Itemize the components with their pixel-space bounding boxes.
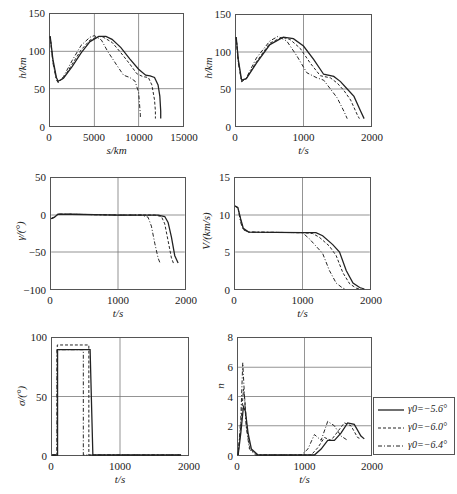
x-axis-label: t/s [273, 307, 333, 319]
y-tick-label: 100 [15, 45, 45, 57]
x-axis-label: t/s [275, 473, 335, 485]
series-line-solid [50, 36, 161, 118]
dashdot-line-icon [378, 445, 404, 448]
legend-item-dashdot: γ0=−6.4° [378, 439, 454, 453]
series-line-solid [52, 350, 181, 455]
y-tick-label: 150 [201, 8, 231, 20]
x-axis-label: s/km [87, 144, 147, 156]
series-line-solid [51, 214, 178, 263]
y-tick-label: 150 [15, 7, 45, 19]
x-tick-label: 5000 [74, 131, 114, 143]
plot-svg [238, 338, 371, 455]
y-tick-label: 4 [203, 391, 233, 403]
x-tick-label: 1000 [283, 294, 323, 306]
series-line-solid [238, 407, 364, 455]
x-tick-label: 0 [30, 294, 70, 306]
plot-area-h-vs-t [235, 14, 372, 127]
legend: γ0=−5.6° γ0=−6.0° γ0=−6.4° [373, 397, 455, 455]
x-tick-label: 2000 [351, 294, 391, 306]
series-line-solid [235, 206, 364, 289]
x-axis-label: t/s [90, 473, 150, 485]
x-tick-label: 2000 [352, 460, 392, 472]
plot-svg [51, 178, 185, 289]
plot-area-gamma-vs-t [50, 177, 186, 290]
y-tick-label: 6 [203, 361, 233, 373]
plot-area-n-vs-t [237, 337, 372, 456]
y-tick-label: 50 [16, 171, 46, 183]
series-line-dashed [51, 214, 173, 263]
x-axis-label: t/s [88, 307, 148, 319]
y-tick-label: 100 [201, 46, 231, 58]
series-line-dashed [238, 389, 361, 455]
legend-item-solid: γ0=−5.6° [378, 403, 454, 417]
series-line-dashdot [50, 36, 140, 119]
series-line-dashdot [51, 214, 160, 263]
series-line-dashed [236, 37, 359, 118]
y-tick-label: 50 [15, 83, 45, 95]
series-line-dashed [52, 345, 181, 455]
x-tick-label: 1000 [285, 460, 325, 472]
x-tick-label: 2000 [352, 131, 392, 143]
x-tick-label: 10000 [119, 131, 159, 143]
x-tick-label: 0 [215, 131, 255, 143]
plot-svg [52, 338, 188, 455]
plot-svg [50, 14, 183, 126]
y-tick-label: 15 [200, 171, 230, 183]
x-tick-label: 0 [29, 131, 69, 143]
y-tick-label: 50 [17, 391, 47, 403]
x-tick-label: 15000 [164, 131, 204, 143]
x-tick-label: 1000 [98, 294, 138, 306]
plot-svg [236, 15, 371, 126]
y-tick-label: 10 [200, 209, 230, 221]
series-line-dashed [235, 206, 361, 289]
y-tick-label: 50 [201, 83, 231, 95]
legend-label: γ0=−6.0° [408, 421, 447, 432]
y-tick-label: 8 [203, 331, 233, 343]
series-line-dashdot [52, 350, 181, 455]
legend-label: γ0=−5.6° [408, 403, 447, 414]
x-tick-label: 1000 [284, 131, 324, 143]
solid-line-icon [378, 409, 404, 412]
y-tick-label: 0 [16, 209, 46, 221]
x-tick-label: 0 [31, 460, 71, 472]
plot-area-h-vs-s [49, 13, 184, 127]
plot-svg [235, 178, 370, 289]
x-tick-label: 1000 [100, 460, 140, 472]
x-tick-label: 0 [214, 294, 254, 306]
x-axis-label: t/s [274, 144, 334, 156]
series-line-dashdot [235, 206, 346, 289]
plot-area-sigma-vs-t [51, 337, 189, 456]
y-tick-label: −50 [16, 246, 46, 258]
y-tick-label: 2 [203, 420, 233, 432]
series-line-dashdot [238, 363, 348, 455]
y-tick-label: 100 [17, 331, 47, 343]
legend-label: γ0=−6.4° [408, 439, 447, 450]
dashed-line-icon [378, 427, 404, 430]
plot-area-V-vs-t [234, 177, 371, 290]
legend-item-dashed: γ0=−6.0° [378, 421, 454, 435]
y-tick-label: 5 [200, 246, 230, 258]
x-tick-label: 0 [217, 460, 257, 472]
series-line-solid [236, 37, 364, 118]
